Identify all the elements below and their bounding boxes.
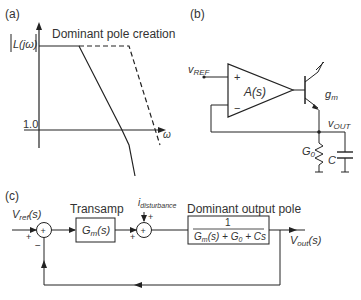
vref-label: Vref(s) — [12, 208, 42, 222]
panel-b-label: (b) — [190, 7, 205, 21]
x-axis-label: ω — [163, 129, 171, 140]
svg-text:−: − — [234, 102, 240, 114]
panel-a-label: (a) — [5, 7, 20, 21]
svg-text:+: + — [234, 71, 240, 83]
panel-a-bode-plot: (a) L(jω) Dominant pole creation 1.0 ω — [5, 7, 175, 176]
disturbance-label: idisturbance — [138, 197, 177, 209]
emitter-arrow-icon — [312, 104, 319, 110]
panel-b-circuit: (b) vREF + − A(s) gm vOUT G0 — [188, 7, 353, 172]
panel-a-title: Dominant pole creation — [52, 27, 175, 41]
panel-c-label: (c) — [5, 189, 19, 203]
feedback-up-arrow-icon — [41, 260, 47, 268]
resistor-g0 — [315, 143, 323, 165]
svg-text:+: + — [41, 226, 46, 236]
gm-label: gm — [325, 88, 338, 102]
pole-title: Dominant output pole — [187, 202, 301, 216]
g0-label: G0 — [302, 145, 316, 159]
feedback-arrow-icon — [134, 282, 142, 288]
y-axis-label: L(jω) — [13, 38, 38, 50]
transamp-title: Transamp — [70, 202, 124, 216]
y-tick-1: 1.0 — [23, 118, 38, 130]
svg-text:+: + — [26, 232, 31, 242]
vout-label: vOUT — [328, 117, 352, 131]
figure: (a) L(jω) Dominant pole creation 1.0 ω (… — [0, 0, 361, 300]
svg-text:+: + — [148, 212, 153, 222]
vref-label: vREF — [188, 63, 211, 77]
vout-label: Vout(s) — [290, 234, 322, 248]
svg-text:+: + — [130, 232, 135, 242]
svg-text:+: + — [141, 226, 146, 236]
svg-text:−: − — [35, 240, 41, 251]
svg-text:1: 1 — [225, 217, 231, 228]
c-label: C — [328, 154, 336, 166]
solid-response-curve — [39, 46, 135, 176]
panel-c-block-diagram: (c) Vref(s) + + − Transamp Gm(s) + + + i… — [5, 189, 322, 288]
amp-label: A(s) — [243, 85, 266, 99]
y-axis-arrow-icon — [36, 22, 42, 30]
output-arrow-icon — [289, 227, 297, 233]
